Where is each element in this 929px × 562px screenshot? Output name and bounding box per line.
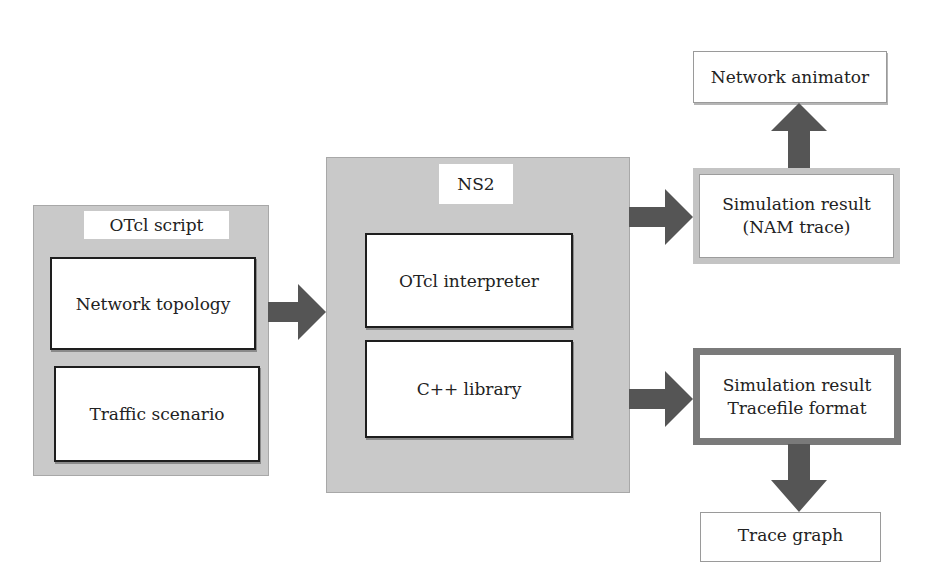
ns2-panel: NS2 OTcl interpreter C++ library	[326, 157, 630, 493]
arrow-ns2-to-trace-result	[629, 371, 695, 431]
cpp-library-box: C++ library	[365, 340, 573, 438]
network-animator-box: Network animator	[693, 51, 887, 103]
trace-result-line2: Tracefile format	[723, 397, 872, 420]
arrow-trace-to-graph	[771, 444, 827, 512]
otcl-script-title: OTcl script	[84, 211, 229, 239]
nam-trace-result-box: Simulation result (NAM trace)	[693, 168, 900, 264]
trace-graph-box: Trace graph	[700, 512, 881, 562]
otcl-interpreter-box: OTcl interpreter	[365, 233, 573, 328]
tracefile-result-box: Simulation result Tracefile format	[693, 348, 901, 445]
ns2-title: NS2	[439, 164, 513, 204]
arrow-nam-to-animator	[771, 103, 827, 169]
nam-result-line1: Simulation result	[722, 193, 871, 216]
traffic-scenario-box: Traffic scenario	[54, 366, 260, 462]
arrow-ns2-to-nam-result	[629, 189, 695, 249]
otcl-script-panel: OTcl script Network topology Traffic sce…	[33, 205, 269, 476]
nam-result-line2: (NAM trace)	[722, 216, 871, 239]
trace-result-line1: Simulation result	[723, 374, 872, 397]
network-topology-box: Network topology	[50, 257, 256, 350]
arrow-otcl-to-ns2	[268, 284, 328, 344]
